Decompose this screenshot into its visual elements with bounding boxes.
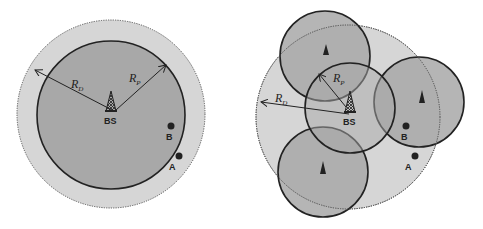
user-b-dot: [403, 123, 410, 130]
diagram-canvas: BS RD RP B A BS RD RP B A: [0, 0, 483, 229]
user-b-label: B: [401, 132, 408, 142]
user-b-dot: [168, 123, 175, 130]
left-diagram: BS RD RP B A: [17, 20, 205, 208]
bs-label: BS: [104, 116, 117, 126]
user-a-label: A: [405, 162, 412, 172]
user-b-label: B: [166, 132, 173, 142]
user-a-dot: [176, 153, 183, 160]
bs-label: BS: [343, 117, 356, 127]
inner-coverage-circle: [37, 41, 185, 189]
user-a-dot: [412, 153, 419, 160]
right-diagram: BS RD RP B A: [256, 11, 464, 217]
user-a-label: A: [169, 162, 176, 172]
